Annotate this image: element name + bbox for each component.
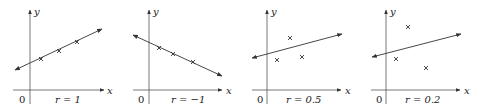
data-points xyxy=(275,36,304,62)
y-axis-label: y xyxy=(389,6,396,17)
correlation-caption: r = 0.2 xyxy=(405,94,440,105)
x-axis-label: x xyxy=(345,85,351,96)
origin-label: 0 xyxy=(376,94,382,105)
x-axis-label: x xyxy=(464,85,470,96)
origin-label: 0 xyxy=(257,94,263,105)
panel-r-neg1: y x 0 r = −1 xyxy=(133,6,232,105)
y-axis-label: y xyxy=(152,6,159,17)
regression-line xyxy=(252,34,342,58)
correlation-caption: r = 0.5 xyxy=(286,94,321,105)
y-axis-label: y xyxy=(33,6,40,17)
y-axis-label: y xyxy=(270,6,277,17)
regression-line xyxy=(372,34,461,57)
correlation-figure: y x 0 r = 1 y x 0 r = −1 y x 0 r = 0.5 xyxy=(0,0,481,110)
correlation-caption: r = −1 xyxy=(171,94,205,105)
correlation-caption: r = 1 xyxy=(55,94,81,105)
origin-label: 0 xyxy=(138,94,144,105)
regression-line xyxy=(15,29,102,70)
panel-r-1: y x 0 r = 1 xyxy=(13,6,113,105)
data-points xyxy=(394,25,428,70)
panel-r-0-2: y x 0 r = 0.2 xyxy=(371,6,470,105)
origin-label: 0 xyxy=(19,94,25,105)
regression-line xyxy=(133,35,222,76)
panel-r-0-5: y x 0 r = 0.5 xyxy=(252,6,351,105)
x-axis-label: x xyxy=(226,85,232,96)
x-axis-label: x xyxy=(107,85,113,96)
